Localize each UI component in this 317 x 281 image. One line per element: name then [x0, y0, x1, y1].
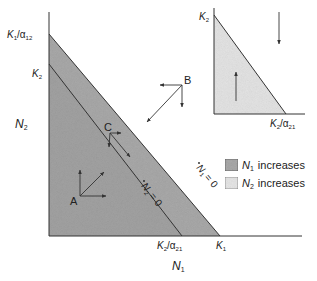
x-tick-k1: K1 [216, 240, 227, 252]
legend-label-n1: N1increases [242, 159, 305, 172]
inset-y-tick-k2: K2 [199, 11, 210, 23]
point-b-vectors [147, 85, 182, 122]
y-tick-k2: K2 [32, 68, 43, 80]
n1-isocline-label: N1= 0 [194, 162, 221, 191]
inset-x-tick-k2-alpha21: K2/α21 [270, 118, 296, 130]
legend-swatch-n2 [225, 177, 238, 189]
y-axis-label: N2 [15, 117, 28, 131]
legend-swatch-n1 [225, 159, 238, 171]
n1-dot-marker [198, 162, 200, 164]
phase-plane-diagram: K1/α12 K2 N2 K2/α21 K1 N1 N1= 0 N2= 0 A … [0, 0, 317, 281]
legend: N1increases N2increases [225, 159, 305, 190]
legend-label-n2: N2increases [242, 177, 305, 190]
x-tick-k2-alpha21: K2/α21 [157, 240, 183, 252]
x-axis-label: N1 [172, 259, 185, 273]
n2-dot-marker [143, 180, 145, 182]
point-a-label: A [70, 195, 78, 207]
point-b-label: B [184, 74, 191, 86]
point-c-label: C [104, 121, 112, 133]
y-tick-k1-alpha12: K1/α12 [7, 29, 33, 41]
